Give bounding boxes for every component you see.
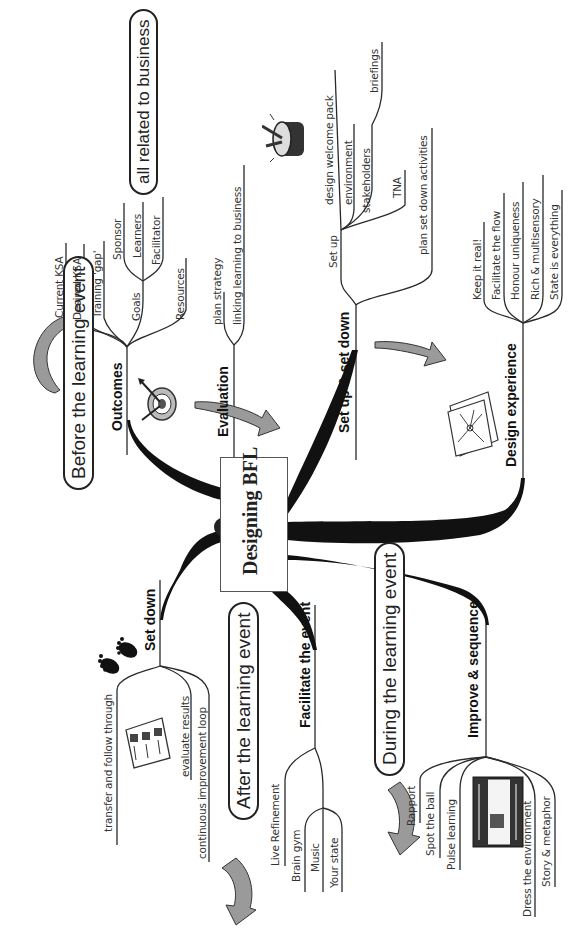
leaf-spot-the-ball: Spot the ball [425,792,436,856]
branch-facilitate-event: Facilitate the event [298,602,312,728]
leaf-live-refinement: Live Refinement [270,784,281,866]
leaf-learners: Learners [132,214,143,258]
checklist-icon [120,714,176,770]
leaf-set-up: Set up [328,235,339,268]
leaf-linking-learning: linking learning to business [232,187,243,325]
branch-set-down: Set down [143,589,157,651]
leaf-stakeholders: stakeholders [361,148,372,213]
leaf-state-everything: State is everything [549,204,560,300]
leaf-evaluate-results: evaluate results [180,696,191,777]
leaf-goals: Goals [131,293,142,321]
phase-after: After the learning event [228,602,259,820]
target-arrows-icon [136,376,180,426]
branch-evaluation: Evaluation [216,366,230,437]
leaf-training-gap: Training 'gap' [92,250,103,318]
leaf-continuous-improvement: continuous improvement loop [197,707,208,859]
leaf-current-ksa: Current KSA [54,256,65,318]
leaf-facilitator: Facilitator [151,216,162,265]
branch-improve-sequence: Improve & sequence [466,601,480,738]
leaf-desired-ksa: Desired KSA [72,258,83,320]
mind-map: Designing BFL Before the learning event … [0,0,581,941]
central-topic-title: Designing BFL [240,447,260,575]
leaf-your-state: Your state [329,838,340,888]
branch-setup-setdown: Set up & set down [337,312,351,433]
classroom-icon [470,774,526,850]
drum-icon [262,110,308,170]
leaf-transfer-follow: transfer and follow through [103,694,114,832]
business-note: all related to business [129,9,158,195]
leaf-music: Music [310,843,321,872]
leaf-story-metaphor: Story & metaphor [541,796,552,887]
footprints-icon [96,634,142,678]
leaf-briefings: briefings [369,49,380,93]
leaf-rapport: Rapport [406,786,417,826]
leaf-plan-set-down: plan set down activities [418,135,429,255]
leaf-honour-uniqueness: Honour uniqueness [510,202,521,300]
leaf-sponsor: Sponsor [112,219,123,260]
leaf-environment: environment [343,140,354,205]
leaf-facilitate-flow: Facilitate the flow [491,211,502,300]
leaf-resources: Resources [175,268,186,320]
phase-during: During the learning event [374,542,405,776]
branch-outcomes: Outcomes [110,363,124,431]
leaf-brain-gym: Brain gym [291,830,302,882]
leaf-pulse-learning: Pulse learning [446,799,457,870]
leaf-design-welcome-pack: design welcome pack [324,95,335,205]
mindmap-sheet-icon [446,390,502,458]
leaf-keep-it-real: Keep it real! [472,239,483,300]
branch-design-experience: Design experience [504,343,518,467]
leaf-rich-multisensory: Rich & multisensory [530,198,541,300]
leaf-plan-strategy: plan strategy [212,258,223,325]
leaf-tna: TNA [392,177,403,198]
